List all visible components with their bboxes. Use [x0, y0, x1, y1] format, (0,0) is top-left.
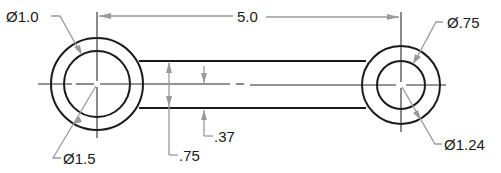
- dimension-half-bar-width: .37: [201, 66, 235, 145]
- label-overall-length: 5.0: [237, 8, 258, 25]
- dimension-bar-width: .75: [166, 62, 200, 164]
- leader-right-outer-diameter: Ø1.24: [402, 87, 485, 153]
- centerlines: [38, 12, 446, 138]
- label-bar-width: .75: [179, 147, 200, 164]
- leader-left-inner-diameter: Ø1.0: [6, 8, 82, 55]
- label-half-bar-width: .37: [214, 128, 235, 145]
- label-left-outer-diameter: Ø1.5: [63, 150, 96, 167]
- label-left-inner-diameter: Ø1.0: [6, 8, 39, 25]
- technical-drawing: 5.0 Ø1.0 Ø1.5 Ø.75 Ø1.24 .75 .3: [0, 0, 501, 173]
- leader-left-outer-diameter: Ø1.5: [53, 86, 96, 167]
- label-right-outer-diameter: Ø1.24: [444, 136, 485, 153]
- leader-right-inner-diameter: Ø.75: [413, 14, 480, 64]
- label-right-inner-diameter: Ø.75: [447, 14, 480, 31]
- dimension-overall-length: 5.0: [99, 8, 399, 25]
